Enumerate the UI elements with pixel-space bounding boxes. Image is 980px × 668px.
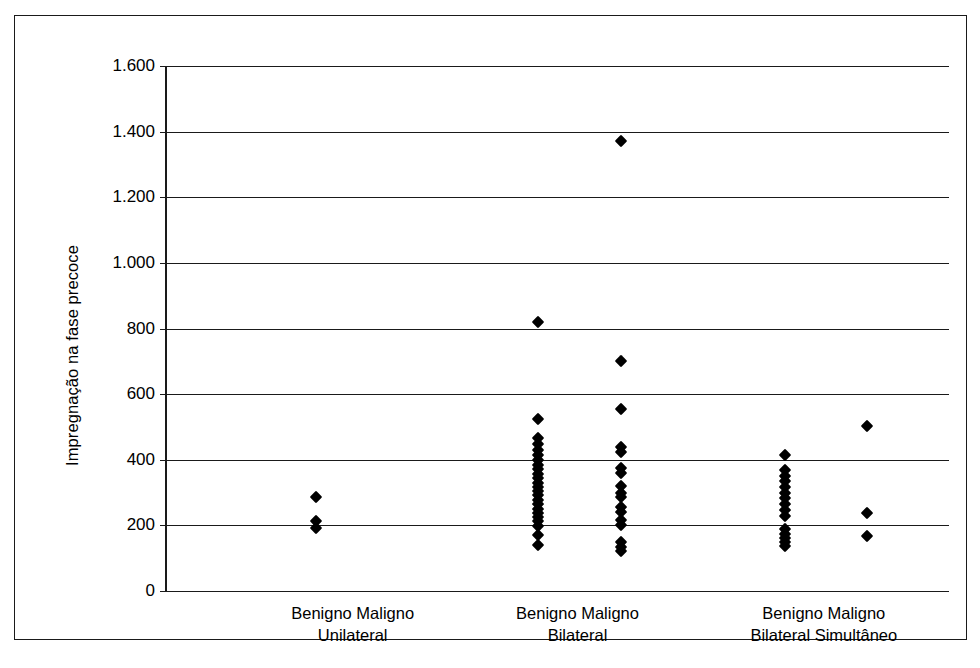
data-point: [861, 420, 874, 433]
gridline: [167, 132, 949, 133]
x-label-line2: Bilateral: [516, 624, 639, 646]
data-point: [614, 403, 627, 416]
x-label-line1: Benigno Maligno: [291, 604, 414, 622]
y-tick-label: 1.200: [112, 187, 155, 207]
y-tick-mark: [160, 66, 167, 67]
gridline: [167, 329, 949, 330]
gridline: [167, 525, 949, 526]
data-point: [532, 539, 545, 552]
y-tick-mark: [160, 197, 167, 198]
chart-figure: Impregnação na fase precoce 020040060080…: [0, 0, 980, 668]
y-tick-label: 600: [127, 384, 155, 404]
data-point: [861, 530, 874, 543]
data-point: [532, 316, 545, 329]
y-tick-mark: [160, 460, 167, 461]
y-tick-mark: [160, 591, 167, 592]
x-label-line2: Bilateral Simultâneo: [750, 624, 897, 646]
y-tick-label: 1.000: [112, 253, 155, 273]
x-label-line1: Benigno Maligno: [516, 604, 639, 622]
x-axis-group-label: Benigno MalignoUnilateral: [291, 602, 414, 647]
gridline: [167, 460, 949, 461]
y-tick-mark: [160, 394, 167, 395]
gridline: [167, 591, 949, 592]
y-tick-label: 400: [127, 450, 155, 470]
x-label-line1: Benigno Maligno: [762, 604, 885, 622]
data-point: [614, 135, 627, 148]
plot-area: 02004006008001.0001.2001.4001.600: [165, 66, 947, 591]
data-point: [309, 491, 322, 504]
y-tick-label: 200: [127, 515, 155, 535]
x-axis-group-label: Benigno MalignoBilateral Simultâneo: [750, 602, 897, 647]
figure-border: Impregnação na fase precoce 020040060080…: [14, 15, 967, 640]
y-tick-label: 800: [127, 319, 155, 339]
data-point: [532, 412, 545, 425]
x-axis-group-label: Benigno MalignoBilateral: [516, 602, 639, 647]
data-point: [861, 507, 874, 520]
y-tick-label: 0: [146, 581, 155, 601]
y-tick-mark: [160, 525, 167, 526]
gridline: [167, 197, 949, 198]
x-axis-labels: Benigno MalignoUnilateralBenigno Maligno…: [165, 602, 947, 660]
y-tick-label: 1.600: [112, 56, 155, 76]
y-tick-mark: [160, 329, 167, 330]
y-tick-mark: [160, 132, 167, 133]
y-axis-title: Impregnação na fase precoce: [63, 191, 82, 521]
data-point: [614, 355, 627, 368]
gridline: [167, 263, 949, 264]
x-label-line2: Unilateral: [291, 624, 414, 646]
y-tick-label: 1.400: [112, 122, 155, 142]
y-tick-mark: [160, 263, 167, 264]
gridline: [167, 394, 949, 395]
gridline: [167, 66, 949, 67]
